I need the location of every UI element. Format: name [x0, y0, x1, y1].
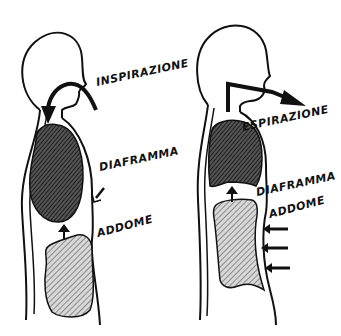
- head-outline: [22, 33, 86, 118]
- back-outline-right: [198, 105, 208, 320]
- label-espirazione: ESPIRAZIONE: [241, 103, 330, 134]
- label-addome-left: ADDOME: [94, 212, 154, 240]
- head-outline-right: [197, 26, 270, 113]
- expiration-figure: ESPIRAZIONE DIAFRAMMA ADDOME: [197, 26, 337, 326]
- abdomen-shape: [45, 235, 93, 317]
- diaphragm-push-arrow-icon: [96, 188, 104, 198]
- lung-shape: [30, 124, 83, 222]
- inspiration-figure: INSPIRAZIONE DIAFRAMMA ADDOME: [22, 33, 190, 325]
- label-inspirazione: INSPIRAZIONE: [95, 57, 190, 89]
- label-diaframma-left: DIAFRAMMA: [98, 144, 180, 174]
- label-addome-right: ADDOME: [266, 193, 326, 221]
- breathing-diagram: INSPIRAZIONE DIAFRAMMA ADDOME ESPIRA: [0, 0, 341, 336]
- label-diaframma-right: DIAFRAMMA: [255, 169, 337, 199]
- abdomen-shape-right: [213, 199, 264, 290]
